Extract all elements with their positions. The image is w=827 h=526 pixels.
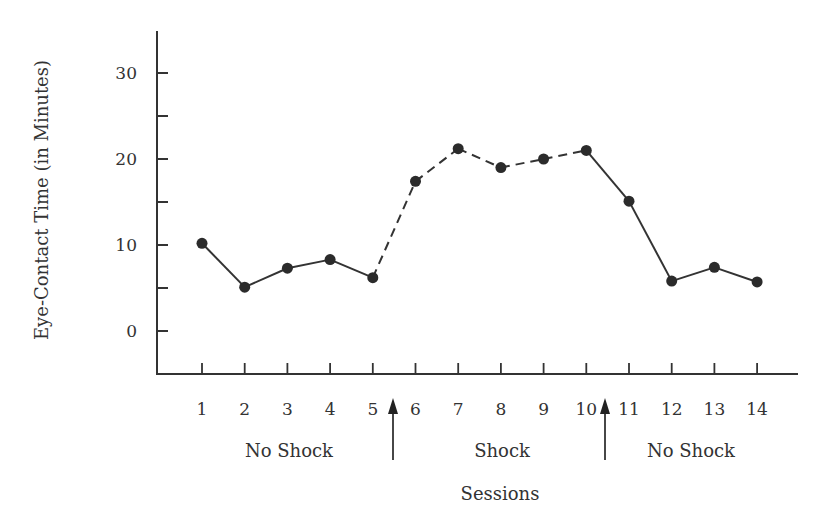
line-chart: 0102030 1234567891011121314 Eye-Contact … (0, 0, 827, 526)
y-ticks: 0102030 (115, 63, 168, 341)
phase-label-no-shock-1: No Shock (245, 440, 334, 461)
x-ticks: 1234567891011121314 (197, 363, 768, 419)
dashed-segment (373, 181, 416, 277)
x-tick-label: 12 (661, 399, 683, 419)
dashed-segment (458, 149, 501, 168)
solid-segment (586, 150, 629, 201)
x-tick-label: 9 (538, 399, 549, 419)
dashed-segment (544, 150, 587, 159)
x-tick-label: 13 (704, 399, 726, 419)
phase-change-arrow-icon (388, 398, 398, 460)
data-point (325, 254, 336, 265)
data-point (282, 263, 293, 274)
solid-segment (714, 267, 757, 282)
x-tick-label: 11 (618, 399, 640, 419)
x-tick-label: 3 (282, 399, 293, 419)
solid-segment (672, 267, 715, 281)
y-axis-title: Eye-Contact Time (in Minutes) (31, 60, 52, 340)
axes: 0102030 1234567891011121314 (115, 31, 798, 419)
data-point (197, 238, 208, 249)
solid-segment (330, 260, 373, 278)
data-point (538, 154, 549, 165)
y-tick-label: 0 (126, 321, 137, 341)
solid-segment (202, 243, 245, 287)
solid-segment (245, 268, 288, 287)
dashed-segment (416, 149, 459, 182)
data-point (752, 276, 763, 287)
data-point (495, 162, 506, 173)
x-tick-label: 8 (495, 399, 506, 419)
x-tick-label: 7 (453, 399, 464, 419)
phase-label-no-shock-2: No Shock (647, 440, 736, 461)
data-point (367, 272, 378, 283)
dashed-segment (501, 159, 544, 168)
x-tick-label: 4 (325, 399, 336, 419)
data-point (453, 143, 464, 154)
phase-labels: No Shock Shock No Shock (245, 440, 736, 461)
solid-segment (287, 260, 330, 269)
x-tick-label: 14 (746, 399, 768, 419)
data-point (410, 176, 421, 187)
x-tick-label: 1 (197, 399, 208, 419)
y-tick-label: 10 (115, 235, 137, 255)
x-tick-label: 6 (410, 399, 421, 419)
phase-label-shock: Shock (474, 440, 531, 461)
data-point (666, 276, 677, 287)
phase-change-arrow-icon (600, 398, 610, 460)
y-tick-label: 30 (115, 63, 137, 83)
data-point (709, 262, 720, 273)
x-tick-label: 5 (367, 399, 378, 419)
y-tick-label: 20 (115, 149, 137, 169)
x-axis-title: Sessions (461, 483, 540, 504)
data-point (624, 196, 635, 207)
data-point (581, 145, 592, 156)
x-tick-label: 10 (575, 399, 597, 419)
data-point (239, 282, 250, 293)
x-tick-label: 2 (239, 399, 250, 419)
solid-segment (629, 201, 672, 281)
